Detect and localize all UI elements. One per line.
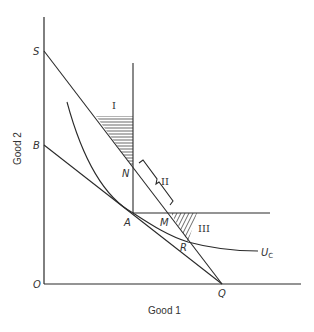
point-label-M: M [160,217,169,228]
region-label-I: I [112,100,116,111]
point-label-S: S [33,46,40,57]
point-label-R: R [180,242,187,253]
curve-label-Uc: UC [261,247,273,260]
point-label-A: A [123,217,131,228]
y-axis-label: Good 2 [12,132,23,165]
region-label-III: III [198,223,210,234]
region-label-II: II [161,176,169,187]
origin-label: O [33,279,41,290]
point-label-B: B [33,140,40,151]
economics-diagram: S B N A M R Q O I II III UC Good 1 Good … [0,0,314,332]
point-label-Q: Q [218,288,226,299]
point-label-N: N [122,168,130,179]
x-axis-label: Good 1 [148,305,181,316]
